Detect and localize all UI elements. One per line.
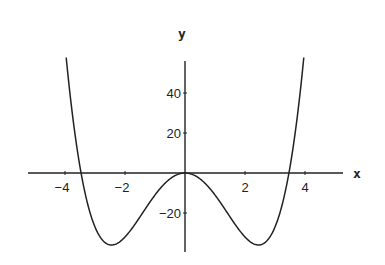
axes (28, 61, 343, 252)
x-axis-label: x (353, 166, 361, 181)
x-tick-label: −2 (115, 180, 130, 195)
tick-labels: −4−2244020−20 (55, 86, 309, 221)
y-tick-label: 40 (167, 86, 181, 101)
x-tick-label: −4 (55, 180, 70, 195)
y-axis-label: y (178, 26, 186, 41)
x-tick-label: 2 (241, 180, 248, 195)
function-plot: −4−2244020−20 y x (0, 0, 385, 265)
x-tick-label: 4 (301, 180, 308, 195)
y-tick-label: 20 (167, 126, 181, 141)
y-tick-label: −20 (159, 206, 181, 221)
